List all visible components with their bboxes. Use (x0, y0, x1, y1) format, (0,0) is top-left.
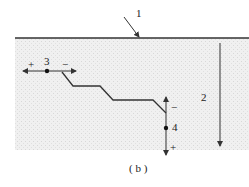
label-1: 1 (136, 8, 142, 19)
label-plus-left: + (28, 59, 34, 70)
label-4: 4 (172, 122, 178, 133)
point-3 (45, 69, 49, 73)
diagram-canvas (0, 0, 249, 187)
label-minus-right: − (62, 59, 68, 70)
label-minus-up: − (171, 102, 177, 113)
point-4 (164, 126, 168, 130)
label-2: 2 (201, 92, 207, 103)
label-3: 3 (44, 56, 50, 67)
figure-caption: ( b ) (129, 163, 147, 174)
label-plus-down: + (170, 142, 176, 153)
surface-pointer-arrow (124, 17, 139, 37)
